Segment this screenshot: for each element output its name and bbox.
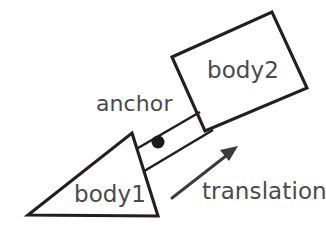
anchor-label: anchor xyxy=(96,93,173,115)
body2-label: body2 xyxy=(207,59,279,82)
translation-label: translation xyxy=(202,180,326,203)
slider-rod-lower xyxy=(141,130,213,173)
diagram-canvas: body2 body1 anchor translation xyxy=(0,0,326,230)
body1-label: body1 xyxy=(74,183,146,206)
anchor-point-dot xyxy=(152,136,165,149)
